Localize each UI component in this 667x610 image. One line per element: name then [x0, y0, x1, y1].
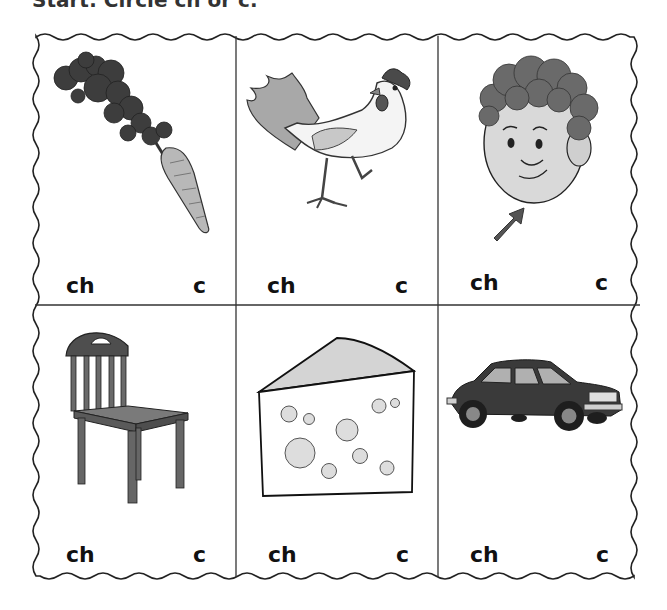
cell-cheese: ch c: [237, 306, 438, 576]
cell-chin: ch c: [439, 38, 639, 305]
choice-ch[interactable]: ch: [267, 275, 296, 297]
choice-c[interactable]: c: [395, 275, 408, 297]
choice-c[interactable]: c: [596, 544, 609, 566]
choice-ch[interactable]: ch: [470, 272, 499, 294]
cell-carrot: ch c: [36, 38, 236, 305]
choice-c[interactable]: c: [193, 275, 206, 297]
choice-ch[interactable]: ch: [268, 544, 297, 566]
cell-car: ch c: [439, 306, 639, 576]
cheese-icon: [237, 306, 438, 536]
choice-c[interactable]: c: [193, 544, 206, 566]
carrot-icon: [36, 38, 236, 268]
choice-ch[interactable]: ch: [66, 275, 95, 297]
chair-icon: [36, 306, 236, 536]
cell-chair: ch c: [36, 306, 236, 576]
choice-ch[interactable]: ch: [66, 544, 95, 566]
car-icon: [439, 306, 639, 536]
chicken-icon: [237, 38, 438, 268]
boy-face-chin-icon: [439, 38, 639, 268]
choice-c[interactable]: c: [595, 272, 608, 294]
cell-chicken: ch c: [237, 38, 438, 305]
choice-ch[interactable]: ch: [470, 544, 499, 566]
choice-c[interactable]: c: [396, 544, 409, 566]
